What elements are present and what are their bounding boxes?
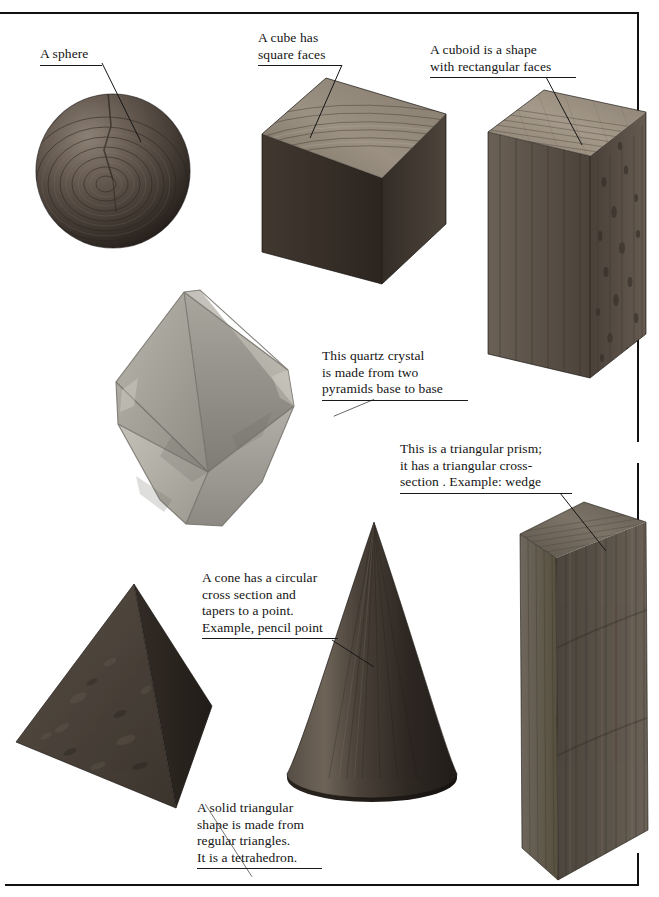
annotation-cone: A cone has a circular cross section and … [202,570,338,639]
wooden-tetrahedron [6,570,222,818]
wooden-cube [258,72,450,290]
wooden-sphere [34,92,192,250]
wooden-cone [276,516,464,816]
annotation-cuboid: A cuboid is a shape with rectangular fac… [430,42,576,78]
wooden-cuboid [486,86,650,404]
wooden-triangular-prism [518,500,654,886]
annotation-quartz: This quartz crystal is made from two pyr… [322,348,468,401]
annotation-cube: A cube has square faces [258,30,342,66]
quartz-crystal-octahedron [112,286,302,532]
top-rule [0,12,639,14]
shapes-page: A sphere A cube has square faces A cuboi… [0,0,659,897]
annotation-prism: This is a triangular prism; it has a tri… [400,441,572,494]
annotation-tetrahedron: A solid triangular shape is made from re… [197,800,322,869]
annotation-sphere: A sphere [40,46,102,66]
